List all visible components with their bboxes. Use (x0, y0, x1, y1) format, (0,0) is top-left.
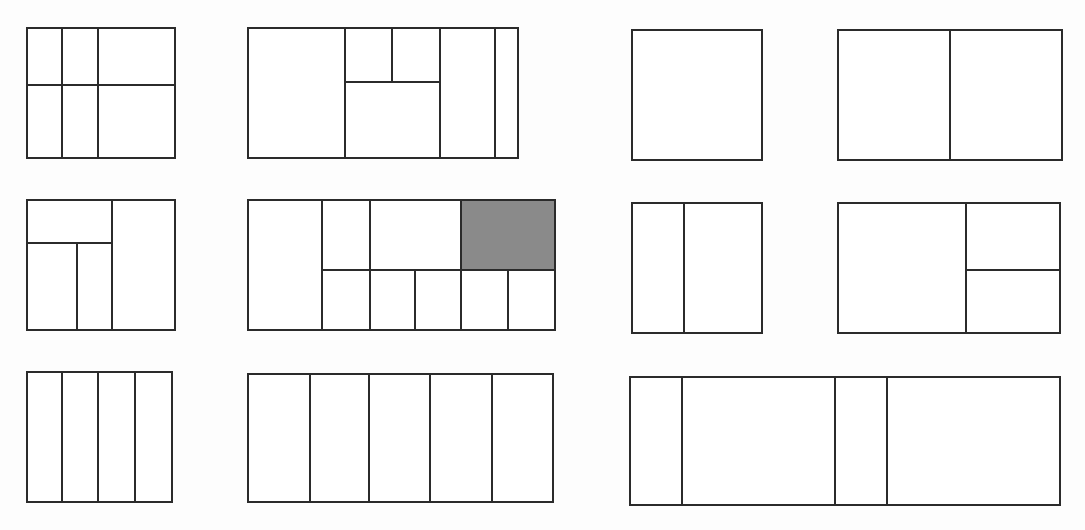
figure-root (0, 0, 1085, 530)
panel-outline (248, 28, 518, 158)
panel-outline (27, 372, 172, 502)
panel-outline (632, 203, 762, 333)
panel-row3-col3[interactable] (630, 377, 1060, 505)
panel-row2-col4[interactable] (838, 203, 1060, 333)
panel-outline (838, 203, 1060, 333)
panel-outline (630, 377, 1060, 505)
panel-row2-col1[interactable] (27, 200, 175, 330)
panel-outline (248, 374, 553, 502)
panel-outline (632, 30, 762, 160)
panel-row1-col3[interactable] (632, 30, 762, 160)
panel-outline (27, 28, 175, 158)
panel-row1-col2[interactable] (248, 28, 518, 158)
panel-row3-col2[interactable] (248, 374, 553, 502)
panel-row1-col4[interactable] (838, 30, 1062, 160)
rectangle-partition-diagram (0, 0, 1085, 530)
panel-row2-col3[interactable] (632, 203, 762, 333)
panel-outline (27, 200, 175, 330)
panel-row2-col2[interactable] (248, 200, 555, 330)
panel-row1-col1[interactable] (27, 28, 175, 158)
panel-row3-col1[interactable] (27, 372, 172, 502)
shaded-cell[interactable] (461, 200, 555, 270)
